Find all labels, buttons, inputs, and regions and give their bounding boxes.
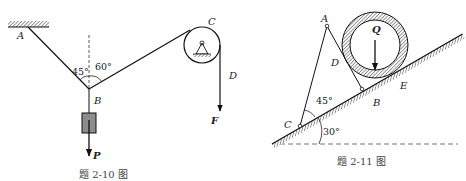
label-c: C: [208, 16, 216, 27]
label-f: F: [210, 115, 219, 126]
label-b-2: B: [372, 97, 380, 108]
diagram-canvas: A 45° 60° B P C D F 题 2-10 图: [0, 0, 466, 181]
angle-label-45: 45°: [72, 66, 89, 77]
label-e-2: E: [399, 80, 408, 91]
caption-2-11: 题 2-11 图: [337, 156, 386, 167]
rope-bc: [89, 30, 190, 89]
label-b: B: [93, 95, 101, 106]
label-d: D: [228, 70, 237, 81]
label-p: P: [92, 150, 101, 161]
angle-arc-45-c: [304, 110, 315, 117]
label-a: A: [16, 30, 24, 41]
label-q: Q: [372, 24, 381, 35]
angle-label-30: 30°: [323, 126, 340, 137]
label-a-2: A: [320, 13, 328, 24]
rod-ac: [300, 26, 327, 126]
angle-label-45-c: 45°: [316, 95, 333, 106]
figure-2-10: A 45° 60° B P C D F 题 2-10 图: [8, 16, 237, 180]
caption-2-10: 题 2-10 图: [79, 169, 128, 180]
figure-2-11: 30° Q 45° A D C B E 题 2-11 图: [272, 12, 465, 167]
ceiling-support: [8, 21, 49, 27]
label-d-2: D: [330, 57, 339, 68]
label-c-2: C: [284, 119, 292, 130]
angle-arc-60: [89, 76, 102, 82]
angle-label-60: 60°: [95, 61, 112, 72]
